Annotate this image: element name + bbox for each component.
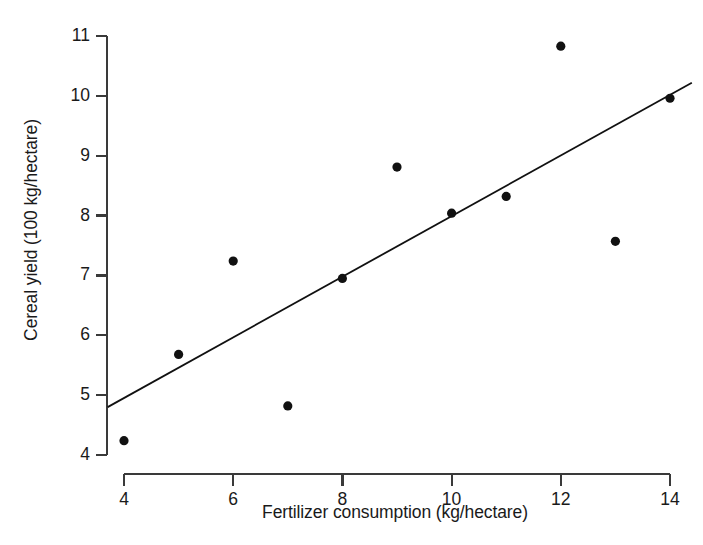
regression-line (108, 83, 692, 407)
y-tick-label: 8 (56, 205, 90, 226)
data-point (338, 274, 347, 283)
y-tick-label: 4 (56, 444, 90, 465)
axis-layer (96, 36, 670, 486)
y-tick-label: 6 (56, 324, 90, 345)
y-tick-label: 5 (56, 384, 90, 405)
plot-canvas (0, 0, 703, 545)
x-axis-label: Fertilizer consumption (kg/hectare) (110, 502, 680, 523)
data-point (611, 237, 620, 246)
data-point (665, 94, 674, 103)
data-point (229, 256, 238, 265)
data-point (556, 42, 565, 51)
data-points-layer (119, 42, 674, 446)
y-tick-label: 11 (56, 25, 90, 46)
data-point (447, 209, 456, 218)
data-point (119, 436, 128, 445)
data-point (502, 192, 511, 201)
scatter-plot-figure: 4567891011468101214 Cereal yield (100 kg… (0, 0, 703, 545)
trend-line (108, 83, 692, 407)
y-tick-label: 7 (56, 264, 90, 285)
y-tick-label: 9 (56, 145, 90, 166)
y-axis-label: Cereal yield (100 kg/hectare) (14, 15, 48, 445)
y-tick-label: 10 (56, 85, 90, 106)
data-point (174, 350, 183, 359)
data-point (283, 401, 292, 410)
data-point (392, 162, 401, 171)
